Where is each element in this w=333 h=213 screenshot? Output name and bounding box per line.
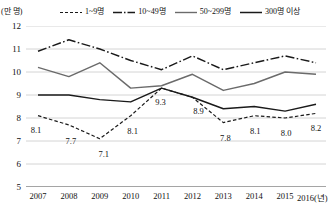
x-axis-tick-label: 2013 xyxy=(215,191,232,201)
y-axis-tick-label: 6 xyxy=(17,159,22,169)
legend-label-2: 50~299명 xyxy=(200,8,231,16)
legend-key-dash-dot-icon xyxy=(113,9,135,16)
series-line-0 xyxy=(38,88,316,139)
data-point-label: 7.8 xyxy=(220,133,231,143)
data-point-label: 8.2 xyxy=(311,123,322,133)
series-line-3 xyxy=(38,88,316,111)
x-axis-tick-label: 2007 xyxy=(30,191,47,201)
legend-item-1[interactable]: 10~49명 xyxy=(113,8,165,16)
legend-label-3: 300명 이상 xyxy=(265,8,300,16)
x-axis-tick-label: 2008 xyxy=(60,191,77,201)
data-point-label: 9.3 xyxy=(155,97,166,107)
y-axis-tick-label: 7 xyxy=(17,136,22,146)
line-chart: (만 명) 1~9명 10~49명 50~299명 300명 이상 xyxy=(0,0,333,213)
x-axis-tick-label: 2011 xyxy=(153,191,170,201)
x-axis-tick-label: 2016(년) xyxy=(297,191,328,203)
y-axis-tick-label: 10 xyxy=(12,67,21,77)
chart-legend: 1~9명 10~49명 50~299명 300명 이상 xyxy=(60,8,300,16)
data-point-label: 8.1 xyxy=(31,125,42,135)
data-point-label: 7.1 xyxy=(98,149,109,159)
legend-key-solid-black-icon xyxy=(240,9,262,16)
series-line-1 xyxy=(38,40,316,70)
plot-area xyxy=(26,26,326,187)
x-axis-tick-label: 2012 xyxy=(184,191,201,201)
plot-svg xyxy=(26,26,326,187)
x-axis-tick-label: 2010 xyxy=(122,191,139,201)
data-point-label: 8.9 xyxy=(193,106,204,116)
y-axis-tick-label: 5 xyxy=(17,182,22,192)
y-axis-unit-label: (만 명) xyxy=(1,5,22,16)
y-axis-tick-label: 12 xyxy=(12,21,21,31)
legend-key-dashed-icon xyxy=(60,9,82,16)
legend-item-0[interactable]: 1~9명 xyxy=(60,8,104,16)
series-line-2 xyxy=(38,63,316,91)
data-point-label: 8.1 xyxy=(127,126,138,136)
y-axis-tick-label: 8 xyxy=(17,113,22,123)
x-axis-tick-label: 2009 xyxy=(91,191,108,201)
legend-item-2[interactable]: 50~299명 xyxy=(175,8,231,16)
legend-label-1: 10~49명 xyxy=(138,8,165,16)
y-axis-tick-label: 9 xyxy=(17,90,22,100)
data-point-label: 7.7 xyxy=(66,136,77,146)
y-axis-tick-label: 11 xyxy=(12,44,21,54)
legend-item-3[interactable]: 300명 이상 xyxy=(240,8,300,16)
x-axis-tick-label: 2015 xyxy=(277,191,294,201)
legend-label-0: 1~9명 xyxy=(85,8,104,16)
legend-key-solid-gray-icon xyxy=(175,9,197,16)
y-axis-labels: 56789101112 xyxy=(0,26,24,187)
data-point-label: 8.1 xyxy=(250,126,261,136)
x-axis-tick-label: 2014 xyxy=(246,191,263,201)
x-axis-labels: 2007200820092010201120122013201420152016… xyxy=(26,189,326,209)
data-point-label: 8.0 xyxy=(281,128,292,138)
